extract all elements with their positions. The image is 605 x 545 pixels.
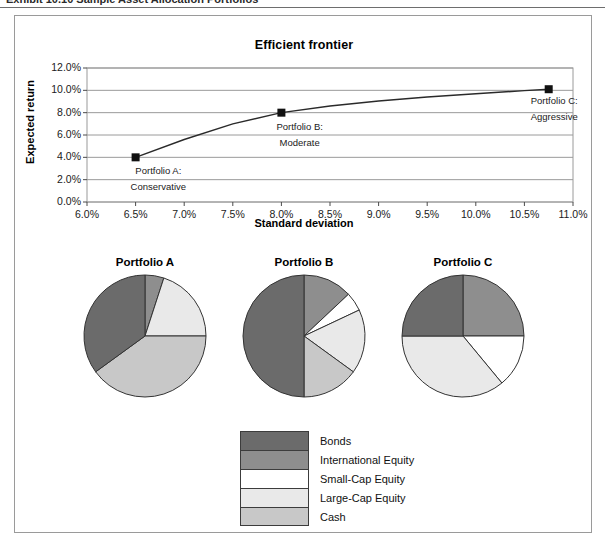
- legend-label: Cash: [320, 511, 346, 523]
- legend-item: International Equity: [240, 450, 414, 469]
- exhibit-caption-text: Exhibit 10.10 Sample Asset Allocation Po…: [6, 0, 258, 5]
- legend-label: Small-Cap Equity: [320, 473, 405, 485]
- pie-slice: [463, 275, 524, 336]
- point-annotation: Portfolio B:Moderate: [276, 121, 322, 148]
- figure-root: Exhibit 10.10 Sample Asset Allocation Po…: [0, 0, 605, 545]
- legend-swatch: [240, 469, 309, 488]
- point-annotation: Portfolio A:Conservative: [131, 165, 186, 192]
- pie-chart-title: Portfolio C: [368, 256, 558, 268]
- point-annotation-name: Portfolio B:: [276, 121, 322, 132]
- point-annotation-style: Conservative: [131, 181, 186, 192]
- figure-frame: Efficient frontier Expected return Stand…: [14, 15, 592, 533]
- point-annotation-style: Aggressive: [531, 111, 578, 122]
- point-annotation-style: Moderate: [276, 137, 322, 148]
- legend-swatch: [240, 507, 309, 526]
- legend-swatch: [240, 488, 309, 507]
- legend-label: Large-Cap Equity: [320, 492, 406, 504]
- legend-item: Large-Cap Equity: [240, 488, 414, 507]
- legend-item: Cash: [240, 507, 414, 526]
- pie-slice: [402, 275, 463, 336]
- exhibit-caption: Exhibit 10.10 Sample Asset Allocation Po…: [0, 0, 605, 9]
- pie-chart-graphic: [242, 274, 366, 398]
- pie-chart-portfolio-c: Portfolio C: [368, 256, 558, 398]
- point-annotation-name: Portfolio C:: [531, 95, 578, 106]
- legend-item: Bonds: [240, 431, 414, 450]
- pie-charts-row: Portfolio APortfolio BPortfolio C: [15, 256, 593, 431]
- pie-slice: [243, 275, 304, 397]
- caption-divider: [0, 7, 605, 8]
- pie-chart-graphic: [83, 274, 207, 398]
- chart-title: Efficient frontier: [15, 38, 593, 52]
- chart-legend: BondsInternational EquitySmall-Cap Equit…: [240, 431, 414, 526]
- legend-item: Small-Cap Equity: [240, 469, 414, 488]
- point-annotation-name: Portfolio A:: [131, 165, 186, 176]
- legend-label: International Equity: [320, 454, 414, 466]
- efficient-frontier-chart: Expected return Standard deviation 0.0%2…: [15, 56, 593, 236]
- legend-label: Bonds: [320, 435, 351, 447]
- legend-swatch: [240, 431, 309, 450]
- pie-chart-graphic: [401, 274, 525, 398]
- legend-swatch: [240, 450, 309, 469]
- point-annotation: Portfolio C:Aggressive: [531, 95, 578, 122]
